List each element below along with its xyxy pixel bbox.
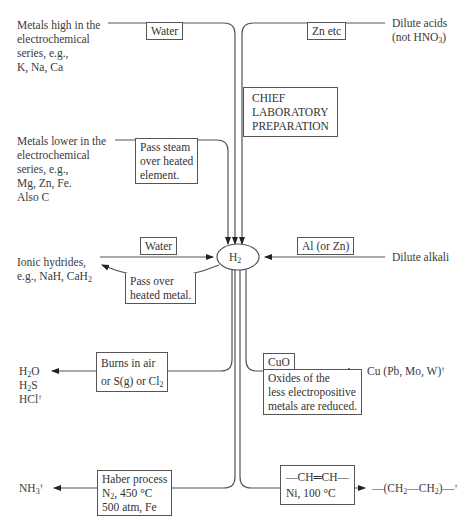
dilute-acids-label: Dilute acids (not HNO3) [392,16,447,44]
burns-products-label: H2O H2S HCl† [19,364,42,406]
water-reagent-box: Water [146,22,183,40]
cu-product-label: Cu (Pb, Mo, W)† [367,364,445,378]
h2-label: H2 [229,250,241,264]
metals-high-label: Metals high in the electrochemical serie… [17,18,100,74]
haber-condition-box: Haber process N2, 450 °C 500 atm, Fe [97,470,172,516]
water-hydride-box: Water [140,237,177,255]
chief-preparation-box: CHIEF LABORATORY PREPARATION [243,87,338,137]
ionic-hydrides-label: Ionic hydrides, e.g., NaH, CaH2 [17,255,92,283]
al-reagent-box: Al (or Zn) [297,237,354,255]
pass-steam-box: Pass steam over heated element. [135,138,198,184]
hydrogenation-condition-box: —CH═CH— Ni, 100 °C [280,465,355,505]
metals-lower-label: Metals lower in the electrochemical seri… [17,134,106,204]
dilute-alkali-label: Dilute alkali [392,250,449,264]
cuo-reagent-box: CuO [263,353,295,369]
metals-high-path [108,23,235,244]
zn-reagent-box: Zn etc [307,22,346,40]
pass-over-metal-box: Pass over heated metal. [125,273,196,304]
polymer-product-label: —(CH2—CH2)—† [372,481,458,495]
nh3-product-label: NH3† [19,481,43,495]
oxides-note-box: Oxides of the less electropositive metal… [263,369,362,415]
burns-condition-box: Burns in air or S(g) or Cl2 [96,352,168,392]
